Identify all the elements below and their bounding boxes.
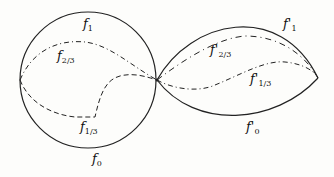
left-f23-path <box>20 42 157 80</box>
label-left-f1: f1 <box>83 17 93 33</box>
label-right-f13: f'1/3 <box>250 72 271 88</box>
right-f1-path <box>157 27 318 80</box>
label-left-f23: f2/3 <box>57 49 75 65</box>
label-left-f13: f1/3 <box>80 120 98 136</box>
label-right-f23: f'2/3 <box>210 43 231 59</box>
right-f23-path <box>157 36 318 80</box>
right-f13-path <box>157 62 318 89</box>
homotopy-diagram: f1 f2/3 f1/3 f0 f'1 f'2/3 f'1/3 f'0 <box>0 0 334 177</box>
right-f0-path <box>157 78 318 115</box>
label-right-f0: f'0 <box>246 120 259 136</box>
junction-point <box>156 79 159 82</box>
label-left-f0: f0 <box>92 152 102 168</box>
left-f13-path <box>20 75 157 117</box>
label-right-f1: f'1 <box>283 17 296 33</box>
